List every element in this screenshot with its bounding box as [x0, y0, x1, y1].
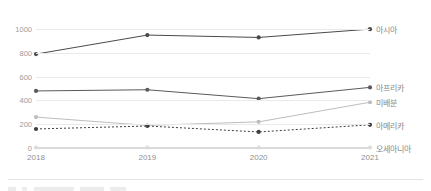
series-line	[36, 102, 370, 125]
x-tick-label: 2019	[138, 153, 156, 162]
y-tick-label: 1000	[2, 25, 32, 34]
series-line	[36, 29, 370, 54]
x-tick-label: 2020	[250, 153, 268, 162]
gridline	[36, 53, 370, 54]
bottom-text-fragment	[8, 187, 128, 191]
text-fragment-mark	[34, 187, 74, 191]
y-tick-label: 600	[2, 72, 32, 81]
y-tick-label: 400	[2, 96, 32, 105]
data-point[interactable]	[257, 35, 261, 39]
data-point[interactable]	[145, 88, 149, 92]
chart-figure: 02004006008001000 2018201920202021 아시아아프…	[0, 0, 431, 191]
y-axis-tick-labels: 02004006008001000	[0, 22, 32, 148]
series-line	[36, 87, 370, 98]
y-tick-label: 800	[2, 48, 32, 57]
legend-label: 오세아니아	[376, 142, 411, 153]
x-axis-tick-labels: 2018201920202021	[36, 153, 370, 167]
text-fragment-mark	[110, 187, 126, 191]
x-axis-line	[36, 148, 370, 149]
x-tick-label: 2021	[361, 153, 379, 162]
legend-label: 아프리카	[376, 82, 404, 93]
bottom-divider	[8, 179, 423, 180]
text-fragment-mark	[22, 187, 27, 191]
gridline	[36, 77, 370, 78]
gridline	[36, 100, 370, 101]
text-fragment-mark	[80, 187, 104, 191]
series-line	[36, 125, 370, 132]
data-point[interactable]	[257, 130, 261, 134]
y-tick-label: 0	[2, 144, 32, 153]
data-point[interactable]	[34, 89, 38, 93]
x-tick-label: 2018	[27, 153, 45, 162]
legend-label: 미배분	[376, 97, 397, 108]
data-point[interactable]	[34, 115, 38, 119]
y-tick-label: 200	[2, 120, 32, 129]
gridline	[36, 124, 370, 125]
legend-label: 아메리카	[376, 119, 404, 130]
data-point[interactable]	[368, 85, 372, 89]
series-layer	[36, 22, 370, 148]
data-point[interactable]	[145, 33, 149, 37]
text-fragment-mark	[8, 187, 16, 191]
plot-area	[36, 22, 370, 148]
gridline	[36, 29, 370, 30]
data-point[interactable]	[34, 127, 38, 131]
legend-label: 아시아	[376, 24, 397, 35]
